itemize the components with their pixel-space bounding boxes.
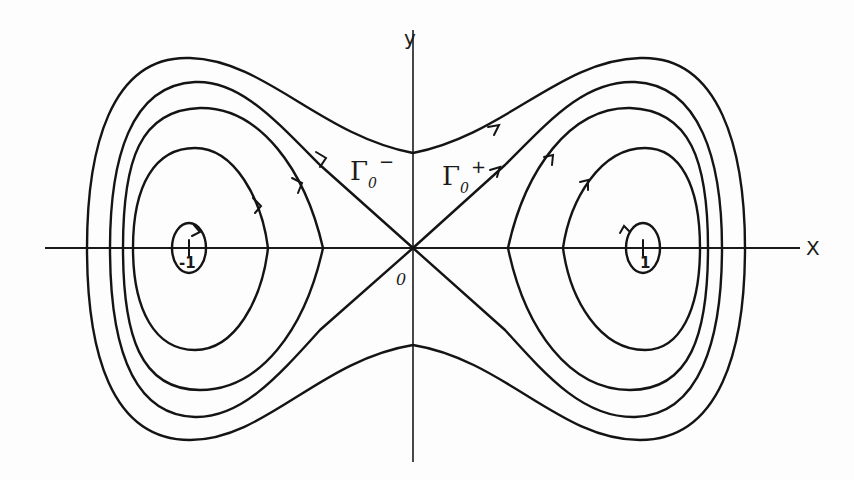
phase-portrait-canvas: [0, 0, 854, 480]
arrow-icon: [292, 178, 302, 193]
phase-portrait-diagram: y X 0 -1 1 Γ0− Γ0+: [0, 0, 854, 480]
gamma-minus-symbol: Γ: [350, 156, 368, 186]
y-axis-label: y: [404, 28, 416, 48]
gamma-plus-label: Γ0+: [442, 163, 484, 189]
arrow-icon: [316, 152, 326, 167]
gamma-minus-sub: 0: [368, 175, 377, 191]
x-axis-label: X: [806, 238, 820, 258]
origin-label: 0: [396, 272, 406, 288]
arrow-icon: [488, 125, 499, 135]
gamma-plus-sup: +: [471, 156, 486, 177]
gamma-plus-symbol: Γ: [442, 161, 460, 191]
minus-one-label: -1: [179, 256, 196, 271]
gamma-plus-sub: 0: [460, 180, 469, 196]
gamma-minus-sup: −: [379, 151, 394, 172]
arrow-icon: [620, 226, 630, 233]
plus-one-label: 1: [640, 256, 650, 271]
gamma-minus-label: Γ0−: [350, 158, 392, 184]
